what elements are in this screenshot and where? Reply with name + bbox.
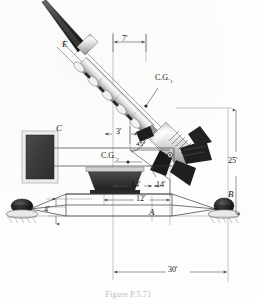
support-right-pin [208, 198, 240, 223]
label-dim-3ft: 3' [116, 128, 121, 136]
label-dim-30ft: 30' [168, 266, 177, 274]
dim-ticks [48, 207, 66, 216]
fuselage-ports [72, 60, 142, 130]
cg2-subscript: 2 [116, 157, 118, 162]
cg1-prefix: C.G. [155, 73, 170, 82]
label-point-a: A [149, 208, 155, 217]
label-point-b: B [228, 190, 234, 199]
label-dim-12ft: 12' [136, 195, 145, 203]
label-dim-4ft: 4' [44, 206, 49, 214]
label-dim-25ft: 25' [228, 157, 237, 165]
label-point-d: D [158, 151, 165, 160]
label-dim-14ft-right: 14' [156, 181, 165, 189]
figure-caption: Figure P.5.71 [0, 290, 257, 299]
cg1-marker [144, 88, 158, 108]
label-cg1: C.G.1 [155, 74, 173, 85]
label-point-e: E [62, 40, 68, 49]
angle-value: 45 [136, 140, 143, 148]
label-cg2: C.G.2 [101, 152, 119, 163]
trailer-frame [30, 194, 216, 216]
counterweight-block [22, 131, 58, 183]
rocket-assembly [42, 0, 212, 186]
support-left-rocker [6, 199, 38, 223]
label-dim-14ft-left: 14' [131, 181, 140, 189]
label-dim-7ft: 7' [122, 35, 127, 43]
cg1-subscript: 1 [170, 79, 172, 84]
pivot-point-d [168, 153, 173, 158]
cg2-prefix: C.G. [101, 151, 116, 160]
label-point-c: C [56, 124, 62, 133]
label-angle-45: 45° [136, 141, 145, 148]
